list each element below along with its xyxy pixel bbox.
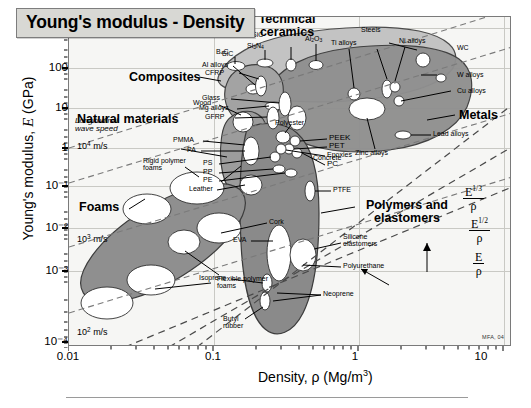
x-tick-0-1: 0.1 xyxy=(205,350,221,362)
x-tick-0-01: 0.01 xyxy=(57,350,79,362)
footer-divider xyxy=(66,397,468,398)
chart-title: Young's modulus - Density xyxy=(16,8,255,38)
y-axis-label-pre: Young's modulus, xyxy=(20,127,36,240)
label-leader-lines xyxy=(69,17,511,346)
guideline-fraction-den: ρ xyxy=(463,199,484,212)
author-signature: MFA, 04 xyxy=(482,334,504,340)
x-tick-1: 1 xyxy=(352,350,358,362)
guideline-frac-exp: 1/2 xyxy=(478,216,488,225)
x-axis-label: Density, ρ (Mg/m3) xyxy=(258,368,373,385)
y-axis-label: Young's modulus, E (GPa) xyxy=(20,39,37,279)
ashby-chart-young-modulus-density: Young's modulus, E (GPa) 1000 100 10 1 1… xyxy=(0,0,531,408)
guideline-fraction-num: E1/3 xyxy=(463,185,484,199)
guideline-fraction-den: ρ xyxy=(469,231,490,244)
y-axis-symbol: E xyxy=(20,118,36,127)
guideline-fraction-e13-over-rho: E1/3 ρ xyxy=(463,185,484,212)
x-axis-label-text: Density, ρ (Mg/m xyxy=(258,369,363,385)
y-axis-unit: (GPa) xyxy=(20,77,36,118)
x-axis-label-close: ) xyxy=(368,369,373,385)
guideline-fraction-e-over-rho: E ρ xyxy=(473,251,484,277)
guideline-frac-exp: 1/3 xyxy=(472,184,482,193)
guideline-fraction-num: E xyxy=(473,251,484,264)
guideline-fraction-num: E1/2 xyxy=(469,217,490,231)
x-axis-minor-ticks xyxy=(68,346,511,353)
guideline-fraction-e12-over-rho: E1/2 ρ xyxy=(469,217,490,244)
plot-area: Technical ceramics Composites Metals Nat… xyxy=(68,16,511,346)
guideline-fraction-den: ρ xyxy=(473,264,484,277)
x-tick-10: 10 xyxy=(475,350,488,362)
